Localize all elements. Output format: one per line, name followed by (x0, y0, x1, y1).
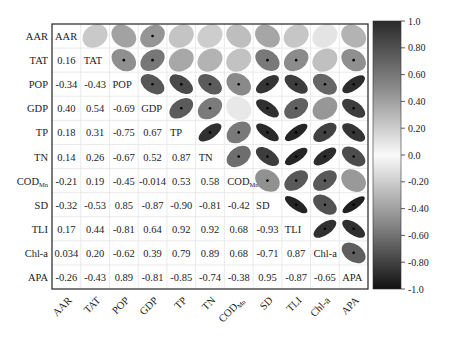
x-axis-label: AAR (50, 295, 73, 318)
colorbar-tick-label: 0.20 (408, 123, 426, 134)
x-axis-label: APA (339, 294, 361, 316)
correlation-value: -0.32 (55, 200, 77, 211)
correlation-ellipse (308, 44, 342, 77)
significance-dot (352, 59, 355, 62)
significance-dot (237, 83, 240, 86)
y-axis-label: AAR (26, 31, 48, 42)
significance-dot (295, 131, 298, 134)
y-axis-label: CODMn (17, 176, 49, 188)
correlation-value: -0.75 (113, 127, 135, 138)
correlation-value: -0.014 (139, 176, 167, 187)
significance-dot (324, 131, 327, 134)
correlation-value: 0.40 (57, 103, 75, 114)
correlation-value: -0.93 (257, 224, 279, 235)
significance-dot (352, 227, 355, 230)
correlation-value: -0.81 (199, 200, 221, 211)
diagonal-label: TLI (285, 224, 302, 235)
correlation-ellipse (193, 44, 227, 77)
correlation-value: 0.034 (55, 248, 79, 259)
correlation-value: 0.18 (57, 127, 75, 138)
significance-dot (295, 155, 298, 158)
significance-dot (209, 131, 212, 134)
correlation-value: 0.20 (86, 248, 104, 259)
correlation-ellipse (164, 44, 198, 76)
correlation-value: -0.85 (170, 272, 192, 283)
colorbar-tick-label: -0.80 (408, 257, 429, 268)
correlation-value: 0.53 (172, 176, 190, 187)
y-axis-label: TAT (30, 55, 49, 66)
matrix-cells: AAR0.16TAT-0.34-0.43POP0.400.54-0.69GDP0… (55, 19, 371, 283)
correlation-ellipse (251, 20, 285, 52)
colorbar-tick-label: 0.0 (408, 150, 421, 161)
significance-dot (151, 59, 154, 62)
significance-dot (324, 179, 327, 182)
colorbar-tick-label: -0.60 (408, 230, 429, 241)
significance-dot (266, 131, 269, 134)
y-axis-label: TP (36, 127, 48, 138)
diagonal-label: AAR (55, 31, 77, 42)
correlation-value: -0.67 (113, 152, 135, 163)
correlation-value: 0.54 (86, 103, 105, 114)
correlation-matrix-chart: AAR0.16TAT-0.34-0.43POP0.400.54-0.69GDP0… (0, 0, 450, 337)
correlation-value: 0.92 (201, 224, 219, 235)
correlation-ellipse (107, 20, 141, 52)
significance-dot (237, 131, 240, 134)
significance-dot (324, 83, 327, 86)
correlation-value: -0.87 (142, 200, 164, 211)
correlation-value: -0.81 (113, 224, 135, 235)
y-axis-labels: AARTATPOPGDPTPTNCODMnSDTLIChl-aAPA (17, 31, 49, 283)
significance-dot (209, 83, 212, 86)
correlation-ellipse (308, 92, 341, 124)
correlation-value: 0.17 (57, 224, 75, 235)
significance-dot (266, 83, 269, 86)
significance-dot (151, 35, 154, 38)
y-axis-label: TN (34, 152, 48, 163)
y-axis-label: SD (35, 200, 49, 211)
significance-dot (295, 59, 298, 62)
correlation-value: 0.64 (143, 224, 162, 235)
correlation-value: -0.53 (84, 200, 106, 211)
significance-dot (209, 107, 212, 110)
significance-dot (295, 179, 298, 182)
correlation-value: 0.19 (86, 176, 104, 187)
correlation-value: -0.21 (55, 176, 77, 187)
correlation-value: 0.89 (115, 272, 133, 283)
correlation-value: -0.43 (84, 79, 106, 90)
correlation-value: -0.90 (170, 200, 192, 211)
colorbar-gradient (373, 21, 401, 289)
x-axis-label: Chl-a (308, 294, 333, 319)
x-axis-label: POP (110, 295, 132, 317)
colorbar-tick-label: 0.80 (408, 42, 426, 53)
colorbar-tick-label: 0.60 (408, 69, 426, 80)
colorbar-tick-label: 0.40 (408, 96, 426, 107)
correlation-ellipse (337, 165, 370, 197)
diagonal-label: TP (170, 127, 182, 138)
correlation-value: 0.26 (86, 152, 104, 163)
significance-dot (123, 59, 126, 62)
correlation-value: -0.43 (84, 272, 106, 283)
correlation-value: -0.62 (113, 248, 135, 259)
correlation-value: -0.38 (228, 272, 250, 283)
significance-dot (266, 155, 269, 158)
x-axis-label: TP (172, 295, 189, 312)
significance-dot (324, 155, 327, 158)
significance-dot (324, 203, 327, 206)
x-axis-label: SD (258, 294, 276, 312)
correlation-value: -0.81 (142, 272, 164, 283)
correlation-value: -0.74 (199, 272, 222, 283)
y-axis-label: GDP (27, 103, 48, 114)
correlation-value: 0.39 (143, 248, 161, 259)
correlation-value: 0.85 (115, 200, 133, 211)
diagonal-label: SD (256, 200, 270, 211)
significance-dot (295, 107, 298, 110)
correlation-value: -0.26 (55, 272, 77, 283)
x-axis-label: TAT (82, 294, 103, 315)
colorbar: 1.00.800.600.400.200.0-0.20-0.40-0.60-0.… (373, 16, 429, 295)
correlation-value: -0.34 (55, 79, 78, 90)
significance-dot (352, 131, 355, 134)
significance-dot (352, 155, 355, 158)
diagonal-label: Chl-a (314, 248, 338, 259)
diagonal-label: TN (199, 152, 213, 163)
correlation-value: 0.79 (172, 248, 190, 259)
correlation-value: 0.95 (258, 272, 276, 283)
